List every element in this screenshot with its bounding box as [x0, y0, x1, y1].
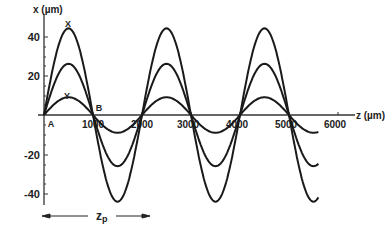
- point-a-label: A: [48, 119, 55, 129]
- trajectory-chart: 40 20 -20 -40 1000 2000 3000 4000 5000 6…: [0, 0, 385, 228]
- x-axis-label: z (µm): [356, 110, 385, 121]
- y-tick-label: 40: [28, 31, 40, 43]
- y-tick-label: 20: [28, 70, 40, 82]
- point-x-label: X: [65, 19, 71, 29]
- point-b-label: B: [96, 103, 103, 113]
- point-y-label: Y: [64, 91, 70, 101]
- y-axis-label: x (µm): [33, 4, 63, 15]
- period-label: zp: [96, 209, 108, 224]
- x-tick-label: 6000: [324, 119, 347, 130]
- y-tick-label: -20: [24, 149, 40, 161]
- y-tick-label: -40: [24, 188, 40, 200]
